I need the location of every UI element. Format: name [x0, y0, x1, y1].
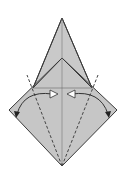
diamond-body	[9, 58, 117, 166]
origami-diagram	[0, 0, 133, 174]
